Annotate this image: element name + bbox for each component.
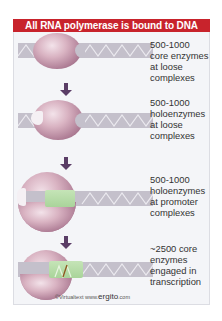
copyright-credit: ©Virtualtext www.ergito.com — [55, 292, 130, 301]
credit-brand: ergito — [98, 292, 118, 301]
arrow-down-icon — [64, 157, 68, 165]
stage-label: 500-1000 holoenzymes at loose complexes — [150, 97, 205, 141]
open-promoter-complex — [45, 190, 75, 207]
transcription-bubble — [49, 261, 83, 278]
stage-holo-loose: 500-1000 holoenzymes at loose complexes — [13, 97, 210, 162]
stage-label: 500-1000 core enzymes at loose complexes — [150, 39, 208, 83]
arrow-down-icon — [64, 236, 68, 244]
stage-label: 500-1000 holoenzymes at promoter complex… — [150, 174, 205, 218]
rna-strand-icon — [49, 261, 83, 278]
credit-prefix: ©Virtualtext www. — [55, 294, 98, 300]
sigma-factor — [31, 111, 43, 125]
stage-holo-promoter: 500-1000 holoenzymes at promoter complex… — [13, 170, 210, 240]
diagram-title: All RNA polymerase is bound to DNA — [13, 19, 210, 32]
credit-suffix: .com — [118, 294, 130, 300]
core-enzyme — [33, 33, 81, 69]
dna-channel — [75, 43, 85, 58]
sigma-factor — [17, 188, 26, 206]
stage-label: ~2500 core enzymes engaged in transcript… — [150, 243, 201, 287]
dna-channel — [75, 113, 85, 128]
arrow-down-icon — [64, 83, 68, 91]
stage-core-loose: 500-1000 core enzymes at loose complexes — [13, 33, 210, 93]
